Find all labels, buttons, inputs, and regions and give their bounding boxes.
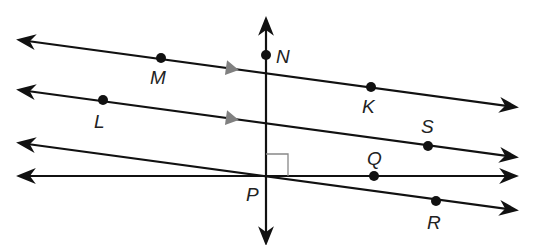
- label-N: N: [276, 46, 290, 67]
- label-P: P: [246, 184, 259, 205]
- label-M: M: [150, 67, 166, 88]
- label-L: L: [94, 111, 105, 132]
- point-R: [431, 196, 441, 206]
- point-N: [261, 50, 271, 60]
- point-K: [366, 82, 376, 92]
- point-L: [98, 95, 108, 105]
- line-MK: [20, 40, 515, 107]
- right-angle-mark: [266, 154, 288, 176]
- geometry-diagram: NMKLSQPR: [0, 0, 536, 245]
- label-S: S: [421, 116, 434, 137]
- label-Q: Q: [367, 148, 382, 169]
- point-Q: [369, 171, 379, 181]
- label-R: R: [427, 212, 441, 233]
- point-S: [423, 141, 433, 151]
- label-K: K: [362, 96, 376, 117]
- point-M: [156, 53, 166, 63]
